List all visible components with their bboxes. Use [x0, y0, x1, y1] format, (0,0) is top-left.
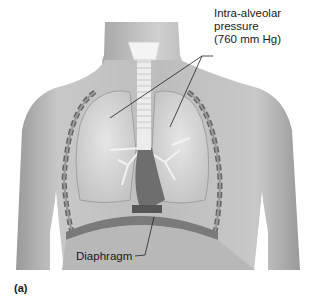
- thorax-illustration: Intra-alveolar pressure (760 mm Hg) Diap…: [0, 0, 315, 303]
- intra-alveolar-pressure-label: Intra-alveolar pressure (760 mm Hg): [214, 7, 304, 46]
- trachea: [137, 55, 151, 150]
- panel-label: (a): [14, 282, 27, 294]
- larynx: [128, 42, 160, 60]
- diaphragm-label: Diaphragm: [76, 250, 132, 263]
